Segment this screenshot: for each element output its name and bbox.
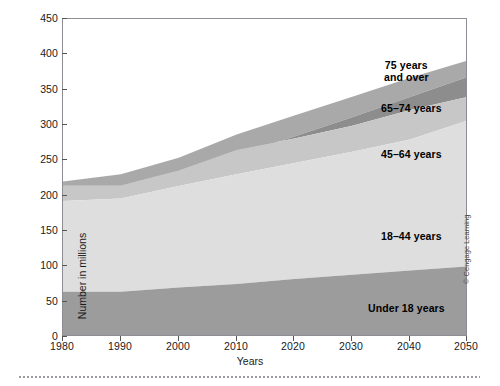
- ytick-mark-300: [62, 124, 67, 125]
- series-label-18-44: 18–44 years: [381, 230, 442, 242]
- xtick-label-2050: 2050: [443, 341, 489, 352]
- xtick-label-2030: 2030: [328, 341, 374, 352]
- ytick-mark-450: [62, 18, 67, 19]
- copyright-credit: © Cengage Learning: [462, 214, 471, 284]
- plot-area: 75 years and over 65–74 years 45–64 year…: [62, 18, 467, 336]
- ytick-label-400: 400: [30, 48, 58, 58]
- ytick-mark-100: [62, 265, 67, 266]
- y-axis-title-wrap: Number in millions: [64, 110, 65, 111]
- ytick-mark-150: [62, 230, 67, 231]
- xtick-label-1990: 1990: [97, 341, 143, 352]
- series-label-75-plus: 75 years and over: [384, 59, 429, 83]
- xtick-label-2020: 2020: [270, 341, 316, 352]
- ytick-mark-50: [62, 301, 67, 302]
- ytick-mark-400: [62, 53, 67, 54]
- ytick-label-50: 50: [30, 296, 58, 306]
- page-dotted-divider: [18, 376, 480, 378]
- x-axis-title: Years: [0, 355, 500, 367]
- y-axis-title: Number in millions: [76, 211, 88, 341]
- series-label-45-64: 45–64 years: [381, 148, 442, 160]
- chart-figure: 75 years and over 65–74 years 45–64 year…: [0, 0, 500, 386]
- ytick-label-350: 350: [30, 84, 58, 94]
- series-label-under-18: Under 18 years: [368, 302, 445, 314]
- series-label-65-74: 65–74 years: [381, 102, 442, 114]
- ytick-label-150: 150: [30, 225, 58, 235]
- y-axis-labels: 450 400 350 300 250 200 150 100 50 0: [26, 0, 58, 386]
- ytick-label-200: 200: [30, 190, 58, 200]
- ytick-label-300: 300: [30, 119, 58, 129]
- ytick-mark-200: [62, 195, 67, 196]
- xtick-label-2040: 2040: [386, 341, 432, 352]
- ytick-label-450: 450: [30, 13, 58, 23]
- xtick-label-1980: 1980: [39, 341, 85, 352]
- ytick-label-250: 250: [30, 154, 58, 164]
- ytick-label-100: 100: [30, 260, 58, 270]
- xtick-label-2010: 2010: [213, 341, 259, 352]
- xtick-label-2000: 2000: [155, 341, 201, 352]
- ytick-mark-350: [62, 89, 67, 90]
- ytick-mark-250: [62, 159, 67, 160]
